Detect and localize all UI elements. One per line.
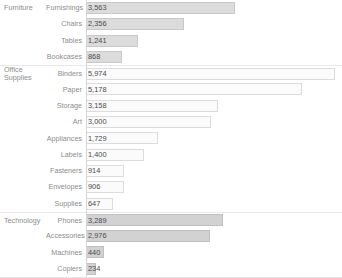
bar-cell: 868 <box>86 49 342 65</box>
bar-value-label: 3,158 <box>88 102 107 110</box>
bar-cell: 2,976 <box>86 228 342 244</box>
chart-row[interactable]: Supplies647 <box>0 196 342 212</box>
subcategory-label: Bookcases <box>46 53 86 61</box>
bar-cell: 3,000 <box>86 114 342 130</box>
chart-row[interactable]: TechnologyPhones3,289 <box>0 212 342 228</box>
value-axis-line <box>86 0 87 277</box>
category-label: Furniture <box>0 4 46 12</box>
bar-cell: 3,563 <box>86 0 342 16</box>
chart-row[interactable]: Labels1,400 <box>0 147 342 163</box>
category-label: Technology <box>0 217 46 225</box>
bar-value-label: 5,178 <box>88 86 107 94</box>
subcategory-label: Paper <box>46 86 86 94</box>
bar-value-label: 3,000 <box>88 118 107 126</box>
subcategory-label: Appliances <box>46 135 86 143</box>
bar-value-label: 1,241 <box>88 37 107 45</box>
bar-cell: 5,178 <box>86 81 342 97</box>
subcategory-label: Fasteners <box>46 167 86 175</box>
bar-cell: 3,289 <box>86 212 342 228</box>
chart-row[interactable]: Copiers234 <box>0 261 342 277</box>
chart-row[interactable]: Office SuppliesBinders5,974 <box>0 65 342 81</box>
subcategory-label: Phones <box>46 217 86 225</box>
chart-row[interactable]: Tables1,241 <box>0 33 342 49</box>
bar-cell: 647 <box>86 196 342 212</box>
bar-cell: 2,356 <box>86 16 342 32</box>
bar-value-label: 1,400 <box>88 151 107 159</box>
bar-cell: 1,400 <box>86 147 342 163</box>
bar-cell: 1,241 <box>86 33 342 49</box>
chart-row[interactable]: Appliances1,729 <box>0 130 342 146</box>
category-label: Office Supplies <box>0 66 46 81</box>
bar-value-label: 3,563 <box>88 4 107 12</box>
chart-row[interactable]: Paper5,178 <box>0 81 342 97</box>
bar-value-label: 914 <box>88 167 100 175</box>
bar-cell: 914 <box>86 163 342 179</box>
chart-row[interactable]: Storage3,158 <box>0 98 342 114</box>
subcategory-label: Supplies <box>46 200 86 208</box>
bar-cell: 1,729 <box>86 130 342 146</box>
subcategory-label: Tables <box>46 37 86 45</box>
chart-row[interactable]: Art3,000 <box>0 114 342 130</box>
chart-row[interactable]: FurnitureFurnishings3,563 <box>0 0 342 16</box>
bar[interactable] <box>86 2 235 14</box>
subcategory-label: Labels <box>46 151 86 159</box>
bar-value-label: 5,974 <box>88 70 107 78</box>
chart-row[interactable]: Accessories2,976 <box>0 228 342 244</box>
bar[interactable] <box>86 214 223 226</box>
bar-value-label: 440 <box>88 249 100 257</box>
chart-row[interactable]: Fasteners914 <box>0 163 342 179</box>
chart-row[interactable]: Bookcases868 <box>0 49 342 65</box>
subcategory-label: Machines <box>46 249 86 257</box>
subcategory-label: Copiers <box>46 265 86 273</box>
chart-row[interactable]: Envelopes906 <box>0 179 342 195</box>
bar-cell: 234 <box>86 261 342 277</box>
bar-value-label: 868 <box>88 53 100 61</box>
subcategory-label: Binders <box>46 70 86 78</box>
bar-value-label: 906 <box>88 183 100 191</box>
bar-value-label: 2,976 <box>88 232 107 240</box>
bar-value-label: 2,356 <box>88 20 107 28</box>
chart-rows: FurnitureFurnishings3,563Chairs2,356Tabl… <box>0 0 342 277</box>
chart-row[interactable]: Machines440 <box>0 244 342 260</box>
subcategory-label: Art <box>46 118 86 126</box>
subcategory-label: Furnishings <box>46 4 86 12</box>
bar-cell: 906 <box>86 179 342 195</box>
bar-cell: 5,974 <box>86 66 342 82</box>
bar-value-label: 3,289 <box>88 217 107 225</box>
subcategory-label: Envelopes <box>46 183 86 191</box>
bar-value-label: 234 <box>88 265 100 273</box>
bar[interactable] <box>86 68 335 80</box>
bar[interactable] <box>86 83 302 95</box>
bar-cell: 3,158 <box>86 98 342 114</box>
bar-value-label: 647 <box>88 200 100 208</box>
bar-value-label: 1,729 <box>88 135 107 143</box>
chart-row[interactable]: Chairs2,356 <box>0 16 342 32</box>
subcategory-label: Storage <box>46 102 86 110</box>
subcategory-label: Accessories <box>46 232 86 240</box>
bar-cell: 440 <box>86 244 342 260</box>
subcategory-label: Chairs <box>46 20 86 28</box>
